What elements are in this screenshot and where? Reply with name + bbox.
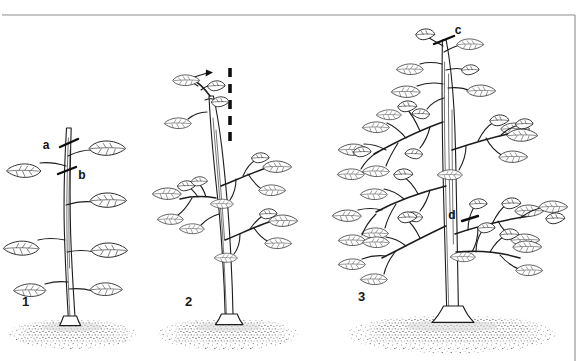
label-b: b bbox=[78, 168, 85, 182]
panel-1: a b 1 bbox=[3, 128, 144, 354]
plant-2-stem bbox=[209, 96, 243, 325]
label-d: d bbox=[448, 208, 455, 222]
plant-3-branch-lower-left bbox=[338, 212, 446, 285]
plant-2-lateral-left bbox=[152, 177, 216, 225]
plant-1-stem bbox=[60, 128, 81, 326]
label-a: a bbox=[43, 138, 50, 152]
panel-3: c d 3 bbox=[332, 23, 567, 356]
plant-3-branch-lower-right bbox=[456, 223, 543, 276]
pruning-illustration: a b 1 bbox=[0, 0, 588, 361]
plant-2-top-shoot bbox=[164, 75, 229, 129]
plant-3-trunk bbox=[432, 40, 474, 322]
figure-root: a b 1 bbox=[0, 0, 588, 361]
plant-2-low-leaf bbox=[179, 214, 219, 234]
panel-number-1: 1 bbox=[22, 294, 29, 309]
panel-2: 2 bbox=[152, 68, 305, 354]
label-c: c bbox=[455, 23, 462, 37]
panel-number-3: 3 bbox=[358, 289, 365, 304]
figure-frame bbox=[2, 15, 575, 361]
panel-number-2: 2 bbox=[185, 294, 192, 309]
